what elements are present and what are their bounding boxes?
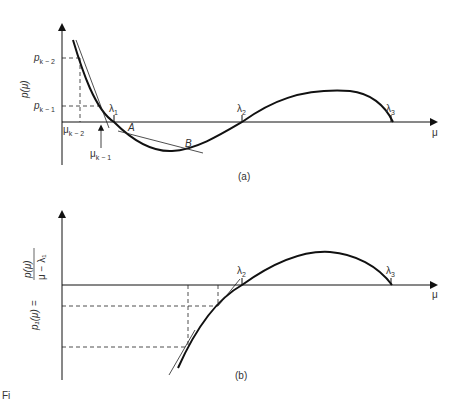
a-xtick-muk1: μk − 1 [90,148,111,161]
b-y-axis-label: p₁(μ) = p(μ) μ − λ₁ [22,248,47,331]
a-y-axis-label: p(μ) [19,80,30,99]
b-root-lambda3: λ3 [386,265,395,278]
b-tangent-1 [169,330,195,375]
a-caption: (a) [238,171,250,182]
b-tangent-2 [218,279,240,306]
figure-b: p₁(μ) = p(μ) μ − λ₁ λ2 λ3 μ (b) [22,212,438,381]
figure-a: p(μ) pk − 2 pk − 1 μk − 2 μk − 1 λ1 λ2 λ… [19,25,438,182]
a-x-axis-label: μ [432,127,438,138]
b-caption: (b) [235,370,247,381]
svg-text:p(μ): p(μ) [22,260,33,279]
footer-fragment: Fi [2,390,10,400]
a-ytick-pk2: pk − 2 [33,52,55,65]
svg-text:p₁(μ) =: p₁(μ) = [29,300,40,331]
figure-canvas: p(μ) pk − 2 pk − 1 μk − 2 μk − 1 λ1 λ2 λ… [0,0,460,400]
svg-text:μ − λ₁: μ − λ₁ [36,254,47,280]
a-secant-1 [76,40,109,128]
a-point-A: A [127,122,135,133]
a-xtick-muk2: μk − 2 [63,124,84,137]
b-deflated-curve [178,252,392,368]
a-polynomial-curve [73,40,393,151]
a-root-lambda1: λ1 [109,103,118,116]
a-ytick-pk1: pk − 1 [33,100,55,113]
b-root-lambda2: λ2 [237,265,246,278]
a-point-B: B [185,138,192,149]
a-root-lambda2: λ2 [237,103,246,116]
b-x-axis-label: μ [432,289,438,300]
